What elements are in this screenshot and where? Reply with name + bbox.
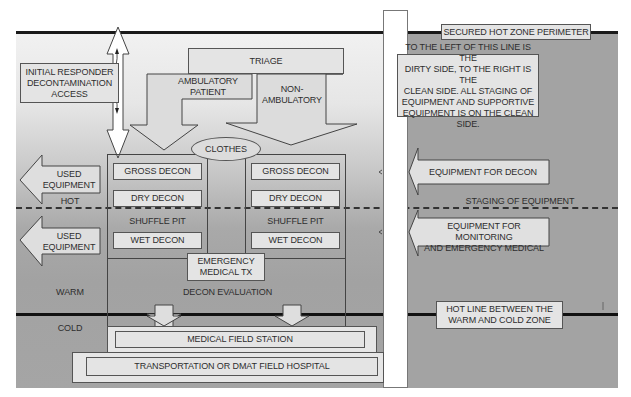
left-wet-decon-label: WET DECON bbox=[131, 235, 185, 246]
transport-box: TRANSPORTATION OR DMAT FIELD HOSPITAL bbox=[86, 357, 378, 376]
right-dry-decon-label: DRY DECON bbox=[269, 193, 322, 204]
triage-box: TRIAGE bbox=[188, 48, 344, 74]
non-ambulatory-line: NON- bbox=[258, 84, 326, 95]
transport-label: TRANSPORTATION OR DMAT FIELD HOSPITAL bbox=[134, 361, 329, 372]
note-line: EQUIPMENT IS ON THE CLEAN SIDE. bbox=[398, 108, 538, 130]
ambulatory-line: AMBULATORY bbox=[166, 76, 250, 87]
initial-responder-box: INITIAL RESPONDER DECONTAMINATION ACCESS bbox=[20, 63, 119, 103]
note-line: EQUIPMENT AND SUPPORTIVE bbox=[402, 97, 534, 108]
perimeter-label: SECURED HOT ZONE PERIMETER bbox=[441, 24, 591, 40]
emergency-tx-line: MEDICAL TX bbox=[200, 267, 253, 278]
note-line: CLEAN SIDE. ALL STAGING OF bbox=[404, 86, 532, 97]
used-equipment-line: EQUIPMENT bbox=[40, 180, 98, 191]
hot-line-label-line: WARM AND COLD ZONE bbox=[448, 315, 550, 326]
non-ambulatory-line: AMBULATORY bbox=[258, 95, 326, 106]
medical-field-station-box: MEDICAL FIELD STATION bbox=[115, 331, 365, 348]
emergency-medical-tx-box: EMERGENCY MEDICAL TX bbox=[187, 253, 265, 281]
decon-evaluation-label: DECON EVALUATION bbox=[160, 287, 295, 298]
right-shuffle-pit-label: SHUFFLE PIT bbox=[251, 216, 340, 227]
left-gross-decon-label: GROSS DECON bbox=[124, 166, 190, 177]
clothes-ellipse: CLOTHES bbox=[191, 137, 261, 161]
hot-line-label-box: HOT LINE BETWEEN THE WARM AND COLD ZONE bbox=[436, 301, 563, 329]
medical-field-station-label: MEDICAL FIELD STATION bbox=[187, 334, 293, 345]
equipment-monitoring-label: EQUIPMENT FOR MONITORING AND EMERGENCY M… bbox=[418, 221, 550, 254]
note-line: DIRTY SIDE, TO THE RIGHT IS THE bbox=[398, 64, 538, 86]
used-equipment-label: USED EQUIPMENT bbox=[40, 169, 98, 191]
initial-responder-line: ACCESS bbox=[51, 89, 87, 100]
note-line: TO THE LEFT OF THIS LINE IS THE bbox=[398, 42, 538, 64]
left-gross-decon: GROSS DECON bbox=[113, 163, 202, 180]
initial-responder-line: INITIAL RESPONDER bbox=[26, 67, 114, 78]
staging-of-equipment-label: STAGING OF EQUIPMENT bbox=[450, 196, 590, 207]
left-wet-decon: WET DECON bbox=[113, 232, 202, 249]
left-dry-decon: DRY DECON bbox=[113, 190, 202, 207]
used-equipment-line: USED bbox=[40, 231, 98, 242]
right-wet-decon-label: WET DECON bbox=[269, 235, 323, 246]
equipment-monitoring-line: EQUIPMENT FOR MONITORING bbox=[418, 221, 550, 243]
used-equipment-line: USED bbox=[40, 169, 98, 180]
right-gross-decon: GROSS DECON bbox=[251, 163, 340, 180]
initial-responder-line: DECONTAMINATION bbox=[27, 78, 112, 89]
zone-cold-label: COLD bbox=[50, 323, 90, 334]
triage-label: TRIAGE bbox=[250, 56, 283, 67]
clean-dirty-note: TO THE LEFT OF THIS LINE IS THE DIRTY SI… bbox=[397, 54, 539, 117]
zone-hot-label: HOT bbox=[50, 196, 90, 207]
clothes-label: CLOTHES bbox=[205, 144, 247, 155]
equipment-for-decon-label: EQUIPMENT FOR DECON bbox=[419, 167, 547, 178]
ambulatory-line: PATIENT bbox=[166, 87, 250, 98]
used-equipment-line: EQUIPMENT bbox=[40, 242, 98, 253]
right-dry-decon: DRY DECON bbox=[251, 190, 340, 207]
equipment-monitoring-line: AND EMERGENCY MEDICAL bbox=[418, 243, 550, 254]
left-dry-decon-label: DRY DECON bbox=[131, 193, 184, 204]
emergency-tx-line: EMERGENCY bbox=[197, 256, 254, 267]
right-gross-decon-label: GROSS DECON bbox=[262, 166, 328, 177]
left-shuffle-pit-label: SHUFFLE PIT bbox=[113, 216, 202, 227]
right-wet-decon: WET DECON bbox=[251, 232, 340, 249]
zone-warm-label: WARM bbox=[50, 287, 90, 298]
ambulatory-label: AMBULATORY PATIENT bbox=[166, 76, 250, 98]
perimeter-label-text: SECURED HOT ZONE PERIMETER bbox=[443, 27, 588, 38]
hot-line-label-line: HOT LINE BETWEEN THE bbox=[446, 304, 553, 315]
used-equipment-label: USED EQUIPMENT bbox=[40, 231, 98, 253]
non-ambulatory-label: NON- AMBULATORY bbox=[258, 84, 326, 106]
